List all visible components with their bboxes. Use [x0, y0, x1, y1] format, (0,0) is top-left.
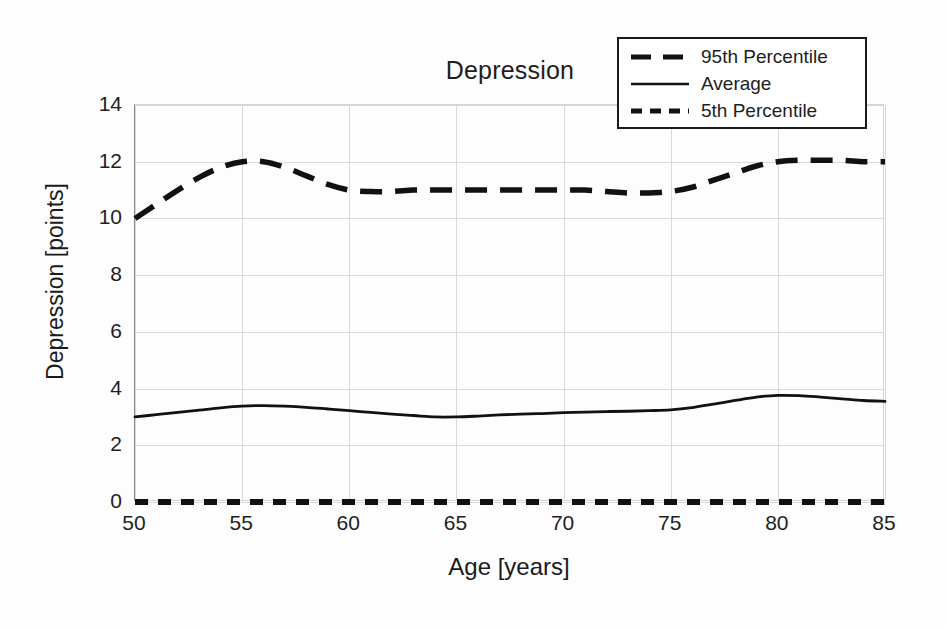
y-axis-title: Depression [points]	[42, 117, 69, 447]
x-axis-title: Age [years]	[359, 553, 659, 581]
y-axis-tick-labels: 02468101214	[74, 104, 122, 501]
legend-item-95th: 95th Percentile	[629, 43, 857, 70]
legend-item-5th: 5th Percentile	[629, 97, 857, 124]
x-tick-label: 70	[533, 512, 593, 533]
chart-legend: 95th Percentile Average 5th Percentile	[617, 37, 867, 129]
x-tick-label: 75	[640, 512, 700, 533]
y-tick-label: 12	[82, 150, 122, 171]
y-tick-label: 14	[82, 93, 122, 114]
series-line-95th-percentile	[135, 160, 885, 218]
legend-label-95th: 95th Percentile	[701, 47, 828, 66]
gridline-vertical	[885, 105, 886, 500]
legend-swatch-short-dashed	[629, 104, 691, 118]
x-tick-label: 60	[318, 512, 378, 533]
plot-area	[134, 104, 884, 501]
x-tick-label: 65	[425, 512, 485, 533]
chart-figure: Depression Depression [points] Age [year…	[0, 0, 947, 628]
series-lines	[135, 105, 885, 502]
y-tick-label: 4	[82, 377, 122, 398]
x-tick-label: 85	[854, 512, 914, 533]
legend-label-average: Average	[701, 74, 771, 93]
legend-swatch-long-dashed	[629, 50, 691, 64]
y-tick-label: 10	[82, 206, 122, 227]
y-tick-label: 2	[82, 433, 122, 454]
x-tick-label: 55	[211, 512, 271, 533]
y-tick-label: 8	[82, 263, 122, 284]
legend-label-5th: 5th Percentile	[701, 101, 817, 120]
y-tick-label: 0	[82, 490, 122, 511]
x-tick-label: 80	[747, 512, 807, 533]
y-tick-label: 6	[82, 320, 122, 341]
x-tick-label: 50	[104, 512, 164, 533]
x-axis-tick-labels: 5055606570758085	[134, 512, 884, 542]
series-line-average	[135, 395, 885, 417]
legend-item-average: Average	[629, 70, 857, 97]
legend-swatch-solid	[629, 77, 691, 91]
chart-title: Depression	[400, 56, 620, 85]
